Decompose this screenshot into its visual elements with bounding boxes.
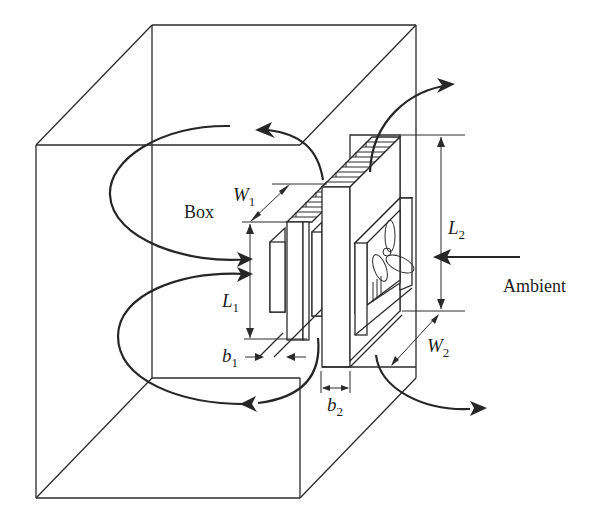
label-ambient: Ambient bbox=[503, 276, 566, 296]
arrowhead bbox=[240, 396, 257, 412]
label-l2: L2 bbox=[447, 217, 465, 242]
box-top-right-diagonal bbox=[300, 25, 416, 145]
airflow-ambient-inlet bbox=[433, 249, 520, 265]
label-w2: W2 bbox=[427, 335, 449, 360]
label-l1: L1 bbox=[221, 290, 239, 315]
label-b2: b2 bbox=[327, 394, 343, 419]
arrowhead bbox=[470, 401, 487, 416]
dimension-b1 bbox=[245, 353, 306, 361]
box-bottom-left-diagonal bbox=[36, 378, 152, 498]
box-top-left-diagonal bbox=[36, 25, 152, 145]
label-w1: W1 bbox=[233, 184, 255, 209]
arrowhead bbox=[437, 78, 455, 93]
dimension-b2 bbox=[321, 371, 350, 393]
fan-frame-outer-face bbox=[355, 243, 367, 335]
fan-frame-side bbox=[400, 198, 412, 290]
inner-sink-bottom-diagonal-1 bbox=[259, 333, 283, 357]
label-box: Box bbox=[184, 202, 214, 222]
inner-sink-base-plate bbox=[287, 222, 303, 340]
outer-sink-front-column bbox=[322, 187, 350, 367]
inner-fin-2-face bbox=[312, 232, 322, 316]
label-b1: b1 bbox=[222, 345, 238, 370]
box-bottom-right-diagonal bbox=[300, 378, 416, 498]
inner-fin-1-face bbox=[270, 242, 285, 312]
tec-enclosure-diagram: Box Ambient W1 L1 b1 L2 W2 b2 bbox=[0, 0, 603, 519]
